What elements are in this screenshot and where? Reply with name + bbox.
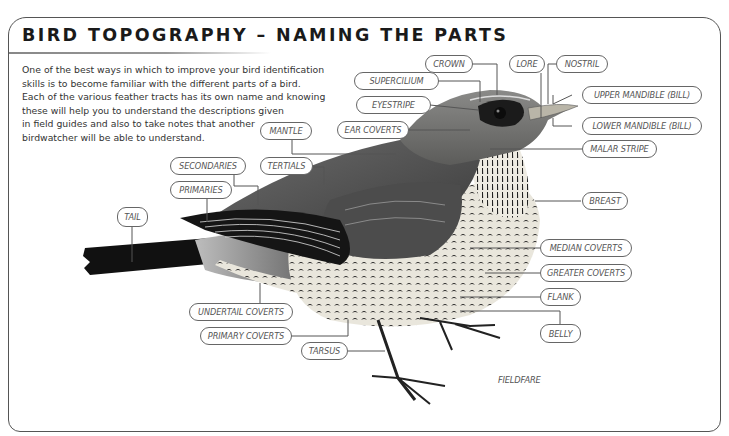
species-caption: FIELDFARE	[498, 375, 541, 385]
label-nostril: NOSTRIL	[556, 55, 608, 73]
label-malar-stripe: MALAR STRIPE	[582, 140, 657, 158]
label-tertials: TERTIALS	[260, 157, 313, 175]
label-tarsus: TARSUS	[301, 342, 348, 360]
label-eyestripe: EYESTRIPE	[356, 96, 431, 114]
label-ear-coverts: EAR COVERTS	[337, 121, 409, 139]
label-primary-coverts: PRIMARY COVERTS	[200, 327, 292, 345]
label-secondaries: SECONDARIES	[170, 157, 246, 175]
label-primaries: PRIMARIES	[170, 181, 232, 199]
label-tail: TAIL	[117, 207, 148, 227]
label-greater-coverts: GREATER COVERTS	[540, 264, 632, 282]
label-upper-mandible: UPPER MANDIBLE (BILL)	[582, 86, 702, 104]
label-undertail-coverts: UNDERTAIL COVERTS	[189, 303, 293, 321]
label-supercilium: SUPERCILIUM	[354, 72, 439, 90]
label-belly: BELLY	[540, 324, 581, 343]
label-median-coverts: MEDIAN COVERTS	[540, 239, 632, 257]
label-flank: FLANK	[540, 288, 581, 306]
label-lower-mandible: LOWER MANDIBLE (BILL)	[582, 117, 702, 135]
label-mantle: MANTLE	[260, 122, 312, 140]
label-lore: LORE	[509, 55, 545, 73]
bird-illustration	[0, 0, 729, 436]
label-crown: CROWN	[425, 55, 473, 73]
label-breast: BREAST	[582, 192, 628, 210]
